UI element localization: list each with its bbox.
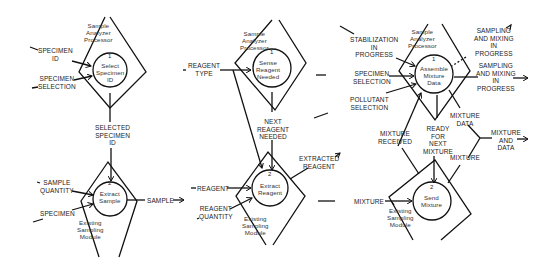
p1-process-2-number: 2 — [108, 180, 111, 186]
p3-process-1-name: Assemble Mixture Data — [420, 65, 448, 86]
p1-container-label: Sample Analyzer Processor — [84, 22, 113, 43]
p3-output-sampling-mixing-2: SAMPLING AND MIXING IN PROGRESS — [476, 62, 516, 92]
p1-process-1-number: 1 — [108, 53, 111, 59]
p3-input-specimen-selection: SPECIMEN SELECTION — [353, 70, 391, 85]
p1-module-label: Existing Sampling Module — [77, 219, 104, 240]
p3-flow-mixture-received: MIXTURE RECEIVED — [378, 130, 412, 145]
p3-module-label: Existing Sampling Module — [387, 207, 414, 228]
p2-input-reagent: REAGENT — [197, 185, 229, 193]
p1-output-sample: SAMPLE — [147, 197, 174, 205]
p1-process-2-name: Extract Sample — [99, 190, 121, 204]
p3-output-mixture-and-data: MIXTURE AND DATA — [491, 129, 521, 152]
p3-process-2-number: 2 — [430, 184, 433, 190]
p1-input-specimen-id: SPECIMEN ID — [38, 47, 73, 62]
p3-output-sampling-mixing-1: SAMPLING AND MIXING IN PROGRESS — [474, 27, 514, 57]
p3-input-stabilization-in-progress: STABILIZATION IN PROGRESS — [350, 36, 398, 59]
p3-flow-mixture: MIXTURE — [450, 154, 480, 162]
p1-input-specimen-selection: SPECIMEN SELECTION — [38, 75, 76, 90]
p3-flow-mixture-data: MIXTURE DATA — [450, 112, 480, 127]
p2-input-reagent-quantity: REAGENT QUANTITY — [199, 205, 233, 220]
p1-input-specimen: SPECIMEN — [40, 210, 75, 218]
p1-flow-selected-specimen-id: SELECTED SPECIMEN ID — [95, 124, 130, 147]
p3-input-mixture: MIXTURE — [354, 198, 384, 206]
p2-flow-next-reagent-needed: NEXT REAGENT NEEDED — [257, 118, 289, 141]
p3-process-2-name: Send Mixture — [421, 194, 442, 208]
p2-module-label: Existing Sampling Module — [242, 215, 269, 236]
p1-input-sample-quantity: SAMPLE QUANTITY — [40, 179, 74, 194]
p2-process-1-name: Sense Reagent Needed — [256, 59, 280, 80]
p1-process-1-name: Select Specimen ID — [96, 62, 124, 83]
p3-input-pollutant-selection: POLLUTANT SELECTION — [350, 96, 389, 111]
p3-process-1-number: 1 — [432, 56, 435, 62]
p2-input-reagent-type: REAGENT TYPE — [188, 62, 220, 77]
p2-process-1-number: 1 — [270, 49, 273, 55]
p2-output-extracted-reagent: EXTRACTED REAGENT — [299, 155, 339, 170]
p2-process-2-number: 2 — [268, 171, 271, 177]
p2-process-2-name: Extract Reagent — [258, 182, 282, 196]
p3-container-label: Sample Analyzer Processor — [408, 28, 437, 49]
p2-container-label: Sample Analyzer Processor — [240, 30, 269, 51]
p3-flow-ready-for-next-mixture: READY FOR NEXT MIXTURE — [423, 125, 453, 155]
